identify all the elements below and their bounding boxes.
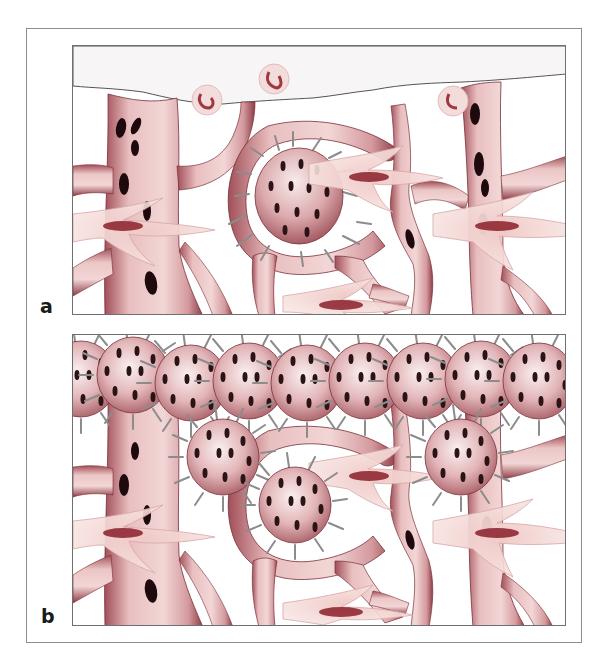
panel-a-illustration bbox=[73, 46, 566, 315]
vessel-middle-right bbox=[369, 403, 433, 626]
vessel-middle-right bbox=[369, 104, 469, 315]
panel-a bbox=[72, 45, 566, 315]
panel-label-a: a bbox=[40, 297, 53, 316]
panel-label-b: b bbox=[41, 607, 55, 626]
panel-b bbox=[72, 334, 566, 626]
vessel-left-trunk bbox=[73, 94, 255, 315]
pericyte-right bbox=[433, 499, 566, 577]
panel-b-illustration bbox=[73, 335, 566, 626]
